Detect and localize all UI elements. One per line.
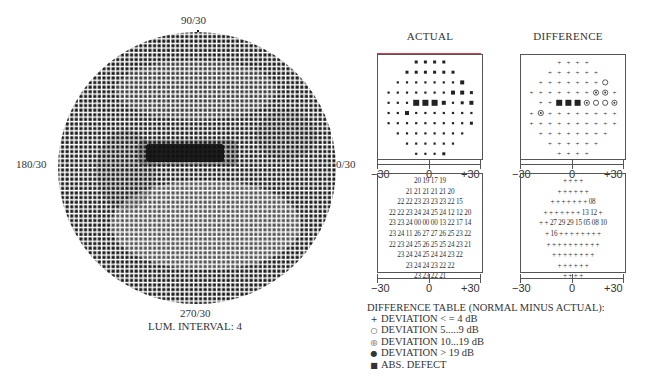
svg-text:+: + [594,120,598,128]
actual-symbol-panel [377,54,483,160]
svg-text:+: + [566,59,570,67]
label-180: 180/30 [16,158,47,170]
svg-text:+: + [548,79,552,87]
svg-text:+: + [594,130,598,138]
difference-symbol-grid: ++++++++++++++++++++++++++++++++++++++++… [521,55,625,159]
svg-text:+: + [576,120,580,128]
table-row: 20 19 17 19 [378,176,482,187]
legend-item-square: ■ABS. DEFECT [367,360,605,372]
svg-text:+: + [594,140,598,148]
svg-text:+: + [566,120,570,128]
svg-text:+: + [530,89,534,97]
lum-interval-caption: LUM. INTERVAL: 4 [148,320,242,332]
svg-text:+: + [585,79,589,87]
scale-center: 0 [569,282,575,294]
svg-text:+: + [576,59,580,67]
svg-text:+: + [585,140,589,148]
svg-text:+: + [566,140,570,148]
svg-text:+: + [539,99,543,107]
table-row: + + + + + + + 13 12 + [521,208,625,219]
svg-text:+: + [557,110,561,118]
table-row: + + + + + + + + + + [521,240,625,251]
svg-text:+: + [576,69,580,77]
table-row: 23 24 24 23 22 22 [378,261,482,272]
svg-text:+: + [557,140,561,148]
table-row: + + + + + + + 08 [521,197,625,208]
actual-values-panel: 20 19 17 1921 21 21 21 21 2022 22 23 23 … [377,173,483,273]
label-90: 90/30 [181,14,206,26]
svg-text:+: + [539,89,543,97]
svg-text:+: + [585,120,589,128]
plus-icon: + [367,315,381,326]
svg-text:+: + [548,69,552,77]
scale-center: 0 [426,282,432,294]
svg-text:+: + [557,150,561,158]
svg-text:+: + [557,89,561,97]
table-row: + + + + + + + + [521,250,625,261]
svg-text:+: + [594,69,598,77]
svg-text:+: + [557,130,561,138]
svg-text:+: + [576,79,580,87]
svg-text:+: + [557,59,561,67]
svg-text:+: + [576,150,580,158]
actual-title: ACTUAL [372,30,488,42]
svg-text:+: + [530,120,534,128]
difference-title: DIFFERENCE [510,30,626,42]
dotted-circle-icon: ◎ [367,338,381,349]
label-0: 0/30 [336,158,356,170]
filled-square-icon: ■ [367,361,381,372]
svg-text:+: + [585,69,589,77]
difference-values-table: + + + ++ + + + + ++ + + + + + + 08+ + + … [521,176,625,282]
svg-text:+: + [594,79,598,87]
table-row: 23 23 24 00 00 00 13 22 17 14 [378,218,482,229]
difference-legend: DIFFERENCE TABLE (NORMAL MINUS ACTUAL): … [367,303,605,372]
table-row: + + + + + + [521,261,625,272]
svg-text:+: + [548,120,552,128]
svg-text:+: + [557,79,561,87]
scale-left: −30 [512,282,531,294]
svg-text:+: + [557,120,561,128]
open-circle-icon: ○ [367,326,381,337]
difference-scale-bottom: −30 0 +30 [514,274,630,298]
actual-scale-bottom: −30 0 +30 [371,274,487,298]
label-270: 270/30 [180,307,211,319]
svg-text:+: + [576,130,580,138]
table-row: 23 24 24 25 24 24 23 22 [378,250,482,261]
table-row: + + + + + + [521,187,625,198]
scale-right: +30 [461,282,480,294]
svg-text:+: + [548,110,552,118]
actual-dot-grid [378,55,482,159]
svg-text:+: + [585,110,589,118]
svg-text:+: + [566,130,570,138]
table-row: + + + + [521,176,625,187]
svg-text:+: + [585,89,589,97]
svg-text:+: + [612,89,616,97]
svg-text:+: + [603,110,607,118]
svg-text:+: + [566,69,570,77]
svg-text:+: + [548,140,552,148]
svg-text:+: + [566,150,570,158]
svg-text:+: + [548,99,552,107]
svg-text:+: + [566,110,570,118]
svg-text:+: + [566,89,570,97]
svg-text:+: + [585,59,589,67]
svg-text:+: + [548,130,552,138]
svg-text:+: + [539,130,543,138]
svg-text:+: + [594,110,598,118]
actual-values-table: 20 19 17 1921 21 21 21 21 2022 22 23 23 … [378,176,482,282]
svg-text:+: + [530,110,534,118]
scale-left: −30 [371,282,390,294]
svg-text:+: + [548,89,552,97]
greyscale-plot [56,30,338,306]
table-row: 22 23 24 25 26 25 25 24 23 21 [378,240,482,251]
table-row: + 16 + + + + + + + + [521,229,625,240]
greyscale-dot-matrix [56,30,338,306]
svg-text:+: + [603,120,607,128]
table-row: 22 22 23 23 23 23 22 15 [378,197,482,208]
svg-text:+: + [585,150,589,158]
svg-text:+: + [585,130,589,138]
svg-text:+: + [576,140,580,148]
table-row: 21 21 21 21 21 20 [378,187,482,198]
svg-text:+: + [557,69,561,77]
svg-text:+: + [612,120,616,128]
